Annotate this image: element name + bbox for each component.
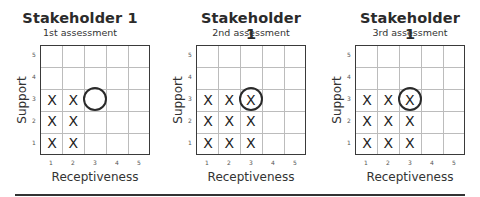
x-tick: 2 [224, 159, 234, 166]
panel-subtitle: 2nd assessment [196, 27, 306, 38]
x-tick: 5 [449, 159, 459, 166]
y-tick: 5 [186, 51, 194, 58]
x-mark: X [356, 110, 378, 132]
x-axis-label: Receptiveness [196, 170, 306, 184]
y-tick: 3 [186, 95, 194, 102]
assessment-grid: XXXXXXXXX [196, 45, 306, 155]
x-mark: X [240, 110, 262, 132]
x-tick: 4 [112, 159, 122, 166]
x-mark: X [377, 89, 399, 111]
x-mark: X [399, 110, 421, 132]
panel-1st-assessment: Stakeholder 1 1st assessment Support 5 4… [0, 0, 160, 197]
y-tick: 3 [30, 95, 38, 102]
x-tick: 1 [361, 159, 371, 166]
x-mark: X [377, 110, 399, 132]
assessment-grid: XXXXXXXXX [355, 45, 465, 155]
x-axis-label: Receptiveness [355, 170, 465, 184]
x-tick: 5 [290, 159, 300, 166]
y-tick: 1 [345, 139, 353, 146]
x-mark: X [197, 110, 219, 132]
panel-3rd-assessment: Stakeholder 1 3rd assessment Support 5 4… [317, 0, 477, 197]
assessment-grid: XXXXXX [40, 45, 150, 155]
y-tick: 1 [30, 139, 38, 146]
x-mark: X [41, 132, 63, 154]
x-mark: X [62, 89, 84, 111]
y-axis-label: Support [171, 70, 185, 130]
x-tick: 1 [202, 159, 212, 166]
x-tick: 4 [268, 159, 278, 166]
y-tick: 4 [345, 73, 353, 80]
target-circle [239, 87, 263, 111]
x-tick: 1 [46, 159, 56, 166]
x-tick: 3 [405, 159, 415, 166]
x-mark: X [356, 132, 378, 154]
y-tick: 2 [30, 117, 38, 124]
x-mark: X [377, 132, 399, 154]
x-tick: 4 [427, 159, 437, 166]
y-tick: 4 [186, 73, 194, 80]
x-tick: 2 [68, 159, 78, 166]
target-circle [83, 87, 107, 111]
y-tick: 3 [345, 95, 353, 102]
panel-subtitle: 1st assessment [0, 27, 160, 38]
panel-subtitle: 3rd assessment [355, 27, 465, 38]
x-mark: X [399, 132, 421, 154]
y-tick: 5 [30, 51, 38, 58]
x-tick: 2 [383, 159, 393, 166]
target-circle [398, 87, 422, 111]
y-axis-label: Support [330, 70, 344, 130]
panel-2nd-assessment: Stakeholder 1 2nd assessment Support 5 4… [158, 0, 318, 197]
y-axis-label: Support [15, 70, 29, 130]
x-mark: X [240, 132, 262, 154]
x-mark: X [218, 110, 240, 132]
y-tick: 2 [345, 117, 353, 124]
x-mark: X [41, 89, 63, 111]
x-mark: X [197, 89, 219, 111]
x-mark: X [62, 110, 84, 132]
x-tick: 3 [246, 159, 256, 166]
x-mark: X [197, 132, 219, 154]
y-tick: 1 [186, 139, 194, 146]
y-tick: 5 [345, 51, 353, 58]
x-mark: X [62, 132, 84, 154]
x-mark: X [356, 89, 378, 111]
x-axis-label: Receptiveness [40, 170, 150, 184]
x-tick: 5 [134, 159, 144, 166]
horizontal-divider [15, 194, 465, 196]
panel-title: Stakeholder 1 [0, 10, 160, 26]
y-tick: 4 [30, 73, 38, 80]
x-mark: X [218, 89, 240, 111]
x-tick: 3 [90, 159, 100, 166]
y-tick: 2 [186, 117, 194, 124]
x-mark: X [218, 132, 240, 154]
x-mark: X [41, 110, 63, 132]
